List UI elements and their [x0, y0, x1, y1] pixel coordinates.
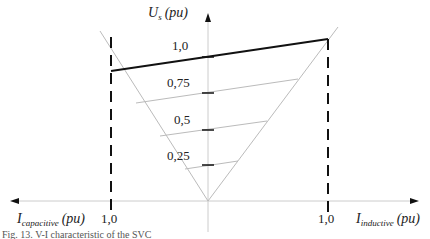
arrow-up-icon	[205, 13, 211, 22]
inductive-tick-label: 1,0	[318, 211, 334, 226]
capacitive-slope-line	[100, 31, 208, 201]
level-label-100: 1,0	[172, 38, 188, 53]
capacitive-tick-label: 1,0	[101, 211, 117, 226]
control-characteristic-line	[111, 39, 328, 71]
level-label-025: 0,25	[167, 148, 190, 163]
arrow-right-icon	[410, 198, 419, 204]
inductive-axis-label: Iinductive(pu)	[355, 211, 420, 228]
vi-characteristic-diagram: Us(pu) 1,0 0,75 0,5 0,25 1,0 1,0 Icapaci…	[0, 0, 430, 239]
figure-caption: Fig. 13. V-I characteristic of the SVC	[2, 229, 151, 239]
voltage-axis-label: Us(pu)	[148, 5, 188, 22]
level-label-050: 0,5	[174, 112, 190, 127]
arrow-left-icon	[10, 198, 19, 204]
level-line-075	[136, 79, 298, 103]
level-label-075: 0,75	[167, 75, 190, 90]
capacitive-axis-label: Icapacitive(pu)	[16, 211, 85, 228]
